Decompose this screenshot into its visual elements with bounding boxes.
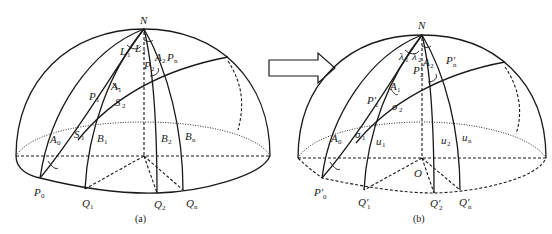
svg-text:n: n bbox=[468, 137, 472, 145]
svg-text:2: 2 bbox=[430, 62, 434, 70]
transform-arrow-icon bbox=[269, 53, 335, 83]
svg-text:2: 2 bbox=[142, 48, 146, 56]
base-front-arc bbox=[16, 156, 270, 193]
svg-text:1: 1 bbox=[127, 51, 131, 59]
svg-text:n: n bbox=[194, 203, 198, 211]
svg-text:n: n bbox=[192, 136, 196, 144]
svg-text:0: 0 bbox=[323, 193, 327, 201]
svg-text:2: 2 bbox=[418, 56, 422, 64]
label-A0: A bbox=[49, 133, 57, 145]
svg-text:n: n bbox=[174, 57, 178, 65]
label-Q1: Q bbox=[82, 197, 90, 209]
label-lambda1: λ bbox=[398, 50, 404, 62]
panel-b-hemisphere bbox=[298, 35, 546, 193]
svg-text:2: 2 bbox=[122, 102, 126, 110]
base-front-arc bbox=[298, 158, 546, 193]
label-A2: A bbox=[422, 56, 430, 68]
label-B2: B bbox=[161, 132, 168, 144]
label-P2: P bbox=[143, 59, 151, 71]
back-meridian bbox=[228, 61, 242, 130]
caption-b: (b) bbox=[413, 213, 425, 225]
svg-text:2: 2 bbox=[162, 204, 166, 212]
svg-text:0: 0 bbox=[338, 138, 342, 146]
svg-text:1: 1 bbox=[104, 138, 108, 146]
svg-text:1: 1 bbox=[397, 86, 401, 94]
label-L2: L bbox=[134, 42, 141, 54]
label-N: N bbox=[139, 14, 148, 26]
svg-text:1: 1 bbox=[405, 56, 409, 64]
label-A1: A bbox=[389, 80, 397, 92]
label-sigma1: σ bbox=[355, 128, 361, 140]
svg-text:1: 1 bbox=[362, 134, 366, 142]
label-P1: P bbox=[88, 90, 96, 102]
angle-l2-arc bbox=[144, 40, 153, 42]
svg-text:0: 0 bbox=[57, 139, 61, 147]
label-S2: S bbox=[115, 96, 121, 108]
label-A2: A bbox=[154, 51, 162, 63]
svg-text:2: 2 bbox=[447, 140, 451, 148]
svg-text:1: 1 bbox=[118, 86, 122, 94]
label-P0: P bbox=[33, 186, 41, 198]
label-Q2: Q bbox=[154, 198, 162, 210]
label-A0: A bbox=[330, 132, 338, 144]
angle-lambda2-arc bbox=[422, 46, 431, 48]
svg-text:1: 1 bbox=[90, 203, 94, 211]
svg-text:2: 2 bbox=[439, 204, 443, 212]
svg-text:2: 2 bbox=[151, 65, 155, 73]
label-B1: B bbox=[97, 132, 104, 144]
svg-text:2: 2 bbox=[168, 138, 172, 146]
back-meridian bbox=[505, 67, 520, 134]
svg-text:1: 1 bbox=[375, 101, 379, 109]
svg-text:1: 1 bbox=[81, 134, 85, 142]
panel-b-labels: N λ 1 λ 2 A 2 P′ n P′ 2 A 1 P′ 1 σ 2 A 0… bbox=[313, 19, 472, 225]
svg-text:2: 2 bbox=[162, 57, 166, 65]
svg-text:2: 2 bbox=[420, 71, 424, 79]
label-Pn: P bbox=[166, 51, 174, 63]
meridian-bn bbox=[144, 29, 183, 190]
svg-text:n: n bbox=[468, 203, 472, 211]
caption-a: (a) bbox=[135, 213, 146, 225]
svg-text:0: 0 bbox=[41, 192, 45, 200]
figure-canvas: N L 1 L 2 A 2 P n P 2 A 1 P 1 S 2 A 0 S … bbox=[0, 0, 552, 234]
radius-q1 bbox=[85, 156, 144, 189]
svg-text:n: n bbox=[453, 61, 457, 69]
panel-a-labels: N L 1 L 2 A 2 P n P 2 A 1 P 1 S 2 A 0 S … bbox=[33, 14, 198, 225]
label-Qn: Q bbox=[186, 197, 194, 209]
label-L1: L bbox=[119, 45, 126, 57]
svg-text:1: 1 bbox=[382, 141, 386, 149]
label-lambda2: λ bbox=[411, 50, 417, 62]
svg-text:1: 1 bbox=[367, 203, 371, 211]
label-Bn: B bbox=[185, 130, 192, 142]
svg-text:1: 1 bbox=[96, 96, 100, 104]
svg-text:2: 2 bbox=[399, 106, 403, 114]
radius-q2 bbox=[144, 156, 157, 193]
label-sigma2: σ bbox=[392, 100, 398, 112]
label-S1: S bbox=[74, 128, 80, 140]
label-N: N bbox=[417, 19, 426, 31]
label-A1: A bbox=[110, 80, 118, 92]
label-O: O bbox=[414, 167, 422, 179]
